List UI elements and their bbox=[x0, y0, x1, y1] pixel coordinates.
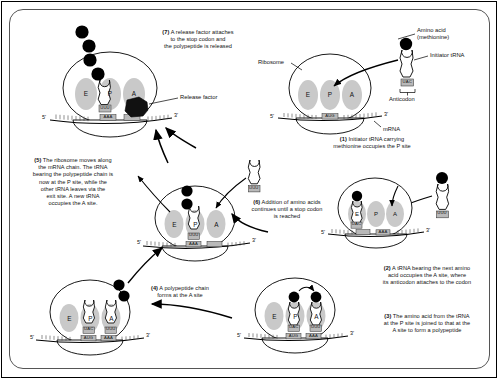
caption-step-5-line-2: the mRNA chain. The tRNA bbox=[38, 164, 107, 170]
five-prime-step2b: 5' bbox=[321, 229, 325, 235]
site-label-a-step4: A bbox=[106, 315, 117, 322]
caption-step-1-line-1: Initiator tRNA carrying bbox=[348, 136, 404, 142]
caption-step-1: (1) Initiator tRNA carrying methionine o… bbox=[287, 136, 457, 150]
codon-aaa-step4: AAA bbox=[101, 336, 116, 340]
caption-step-2-number: (2) bbox=[384, 265, 391, 271]
caption-step-2-line-2: acid occupies the A site, where bbox=[388, 272, 466, 278]
three-prime-step1: 3' bbox=[384, 111, 388, 117]
caption-step-3: (3) The amino acid from the tRNA at the … bbox=[357, 313, 497, 335]
site-label-a-step3: A bbox=[311, 313, 322, 320]
amino-acid-paren-label: (methionine) bbox=[417, 34, 449, 41]
anticodon-p-step5: UUU bbox=[188, 233, 200, 237]
site-label-e-step1: E bbox=[302, 91, 314, 98]
caption-step-5-line-6: exit site. A new tRNA bbox=[46, 193, 99, 199]
site-label-p-step3: P bbox=[290, 313, 301, 320]
site-label-e-step5: E bbox=[169, 221, 180, 228]
three-prime-step5: 3' bbox=[252, 237, 256, 243]
site-label-a-step2b: A bbox=[390, 211, 400, 217]
caption-step-3-number: (3) bbox=[384, 313, 391, 319]
codon-aaa-step5: AAA bbox=[186, 242, 201, 246]
site-label-a-step7: A bbox=[128, 90, 140, 97]
caption-step-7-number: (7) bbox=[162, 29, 169, 35]
caption-step-2-line-1: A tRNA bearing the next amino bbox=[392, 265, 470, 271]
anticodon-a-step3: UUU bbox=[310, 325, 322, 329]
initiator-trna-free bbox=[400, 38, 415, 96]
caption-step-5-line-7: occupies the A site. bbox=[48, 200, 97, 206]
caption-step-4-number: (4) bbox=[151, 285, 158, 291]
anticodon-p-step3: UAC bbox=[288, 325, 300, 329]
site-label-e-step7: E bbox=[80, 90, 92, 97]
caption-step-2-line-3: its anticodon attaches to the codon bbox=[383, 279, 471, 285]
anticodon-p-step4: UAC bbox=[83, 327, 95, 331]
five-prime-step4: 5' bbox=[30, 334, 34, 340]
three-prime-step7: 3' bbox=[174, 112, 178, 118]
caption-step-1-number: (1) bbox=[340, 136, 347, 142]
release-factor-label: Release factor bbox=[180, 94, 217, 101]
site-label-e-step2b: E bbox=[352, 211, 362, 217]
three-prime-step4: 3' bbox=[146, 332, 150, 338]
caption-step-6-line-2: continues until a stop codon bbox=[252, 206, 323, 212]
caption-step-6: (6) Addition of amino acids continues un… bbox=[228, 199, 346, 221]
anticodon-p-step2b: UAC bbox=[351, 222, 362, 226]
anticodon-uac-initiator: UAC bbox=[401, 80, 414, 84]
codon-aug-step4: AUG bbox=[81, 336, 96, 340]
caption-step-7-line-1: A release factor attaches bbox=[171, 29, 234, 35]
three-prime-step3: 3' bbox=[350, 330, 354, 336]
site-label-a-step5: A bbox=[211, 221, 222, 228]
caption-step-3-line-2: at the P site is joined to that at the bbox=[384, 320, 470, 326]
three-prime-step2b: 3' bbox=[426, 227, 430, 233]
codon-aaa-step3: AAA bbox=[306, 334, 321, 338]
caption-step-2: (2) A tRNA bearing the next amino acid o… bbox=[357, 265, 497, 287]
caption-step-6-line-1: Addition of amino acids bbox=[262, 199, 321, 205]
anticodon-incoming-step2: UUU bbox=[436, 211, 448, 215]
anticodon-a-step4: UUU bbox=[105, 327, 117, 331]
five-prime-step7: 5' bbox=[42, 114, 46, 120]
five-prime-step3: 5' bbox=[237, 332, 241, 338]
site-label-p-step1: P bbox=[324, 91, 336, 98]
caption-step-4-line-1: A polypeptide chain bbox=[159, 285, 209, 291]
codon-aug-step1: AUG bbox=[322, 114, 338, 118]
codon-aug-step3: AUG bbox=[286, 334, 301, 338]
caption-step-5-number: (5) bbox=[34, 157, 41, 163]
caption-step-5-line-3: bearing the polypeptide chain is bbox=[33, 171, 113, 177]
site-label-p-step7: P bbox=[104, 90, 116, 97]
caption-step-6-line-3: is reached bbox=[274, 213, 300, 219]
site-label-p-step4: P bbox=[85, 315, 96, 322]
codon-next-step2b: AAA bbox=[376, 230, 390, 234]
site-label-a-step1: A bbox=[346, 91, 358, 98]
caption-step-5-line-1: The ribosome moves along bbox=[43, 157, 112, 163]
translation-diagram: E P A 5' 3' AUG UAC Ribosome Amino acid … bbox=[0, 0, 500, 381]
site-label-e-step3: E bbox=[269, 313, 280, 320]
anticodon-incoming-step5: UUU bbox=[248, 186, 260, 190]
site-label-p-step2b: P bbox=[371, 211, 381, 217]
anticodon-p-step7: UUU bbox=[99, 106, 111, 110]
ribosome-label: Ribosome bbox=[258, 59, 284, 66]
caption-step-5-line-5: other tRNA leaves via the bbox=[41, 186, 106, 192]
caption-step-7: (7) A release factor attaches to the sto… bbox=[133, 29, 263, 51]
site-label-e-step4: E bbox=[64, 315, 75, 322]
five-prime-step5: 5' bbox=[137, 239, 141, 245]
caption-step-6-number: (6) bbox=[253, 199, 260, 205]
anticodon-label: Anticodon bbox=[389, 96, 415, 103]
five-prime-step1: 5' bbox=[270, 113, 274, 119]
caption-step-7-line-3: the polypeptide is released bbox=[164, 43, 232, 49]
caption-step-7-line-2: to the stop codon and bbox=[171, 36, 226, 42]
codon-aaa-step7: AAA bbox=[100, 115, 116, 119]
mrna-label: mRNA bbox=[383, 126, 400, 133]
caption-step-4: (4) A polypeptide chain forms at the A s… bbox=[130, 285, 230, 299]
caption-step-3-line-3: A site to form a polypeptide bbox=[392, 327, 461, 333]
site-label-p-step5: P bbox=[190, 221, 201, 228]
caption-step-4-line-2: forms at the A site bbox=[157, 292, 203, 298]
caption-step-1-line-2: methionine occupies the P site bbox=[333, 143, 410, 149]
caption-step-3-line-1: The amino acid from the tRNA bbox=[393, 313, 470, 319]
initiator-trna-label: Initiator tRNA bbox=[430, 52, 464, 59]
caption-step-5: (5) The ribosome moves along the mRNA ch… bbox=[12, 157, 134, 207]
caption-step-5-line-4: now at the P site, while the bbox=[39, 179, 107, 185]
